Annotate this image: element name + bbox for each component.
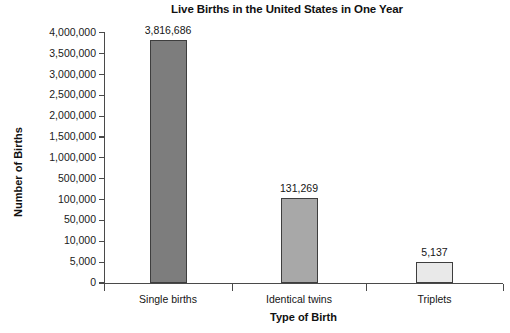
- y-axis-tick-mark: [99, 136, 105, 137]
- x-axis-tick-mark: [104, 284, 105, 291]
- y-axis-tick-mark: [99, 220, 105, 221]
- x-axis-category-label: Single births: [98, 293, 238, 305]
- x-axis-line: [104, 283, 503, 284]
- y-axis-tick-label: 3,500,000: [26, 47, 96, 59]
- y-axis-tick-mark: [99, 116, 105, 117]
- y-axis-tick-label: 1,000,000: [26, 151, 96, 163]
- y-axis-tick-label: 5,000: [26, 255, 96, 267]
- y-axis-tick-mark: [99, 157, 105, 158]
- x-axis-tick-mark: [232, 284, 233, 291]
- y-axis-tick-mark: [99, 262, 105, 263]
- y-axis-tick-mark: [99, 32, 105, 33]
- y-axis-title: Number of Births: [12, 107, 24, 237]
- y-axis-tick-label: 2,000,000: [26, 109, 96, 121]
- chart-title-text: Live Births in the United States in One …: [171, 3, 403, 15]
- y-axis-tick-mark: [99, 74, 105, 75]
- y-axis-tick-label: 10,000: [26, 234, 96, 246]
- x-axis-category-label: Identical twins: [229, 293, 369, 305]
- y-axis-tick-label: 500,000: [26, 172, 96, 184]
- bar-identical-twins[interactable]: [281, 198, 318, 283]
- y-axis-tick-label: 2,500,000: [26, 88, 96, 100]
- chart-title: Live Births in the United States in One …: [0, 3, 510, 15]
- x-axis-category-label: Triplets: [365, 293, 505, 305]
- x-axis-title: Type of Birth: [104, 311, 503, 323]
- bar-triplets[interactable]: [416, 262, 453, 283]
- bar-value-label: 131,269: [244, 182, 354, 194]
- y-axis-tick-label: 100,000: [26, 193, 96, 205]
- y-axis-tick-mark: [99, 95, 105, 96]
- y-axis-tick-label: 4,000,000: [26, 26, 96, 38]
- y-axis-tick-label: 1,500,000: [26, 130, 96, 142]
- bar-value-label: 5,137: [380, 246, 490, 258]
- x-axis-tick-mark: [366, 284, 367, 291]
- x-axis-tick-mark: [503, 284, 504, 291]
- y-axis-tick-mark: [99, 199, 105, 200]
- bar-value-label: 3,816,686: [113, 24, 223, 36]
- y-axis-tick-mark: [99, 53, 105, 54]
- y-axis-tick-label: 3,000,000: [26, 68, 96, 80]
- y-axis-tick-mark: [99, 241, 105, 242]
- y-axis-tick-mark: [99, 178, 105, 179]
- y-axis-tick-label: 50,000: [26, 213, 96, 225]
- y-axis-tick-label: 0: [26, 276, 96, 288]
- bar-chart-figure: Live Births in the United States in One …: [0, 0, 510, 333]
- bar-single-births[interactable]: [150, 40, 187, 283]
